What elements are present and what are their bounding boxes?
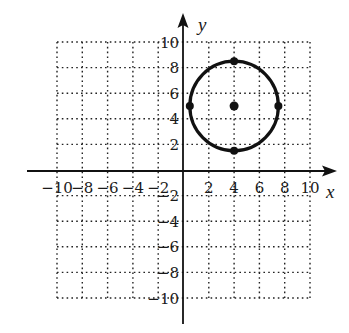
x-tick-label: −6 <box>97 179 119 197</box>
x-tick-label: 10 <box>300 179 319 197</box>
center-point <box>230 102 239 111</box>
y-tick-label: 10 <box>160 34 179 52</box>
y-tick-label: −2 <box>157 187 179 205</box>
x-tick-label: 8 <box>280 179 290 197</box>
y-tick-label: −6 <box>157 238 179 256</box>
y-tick-label: −10 <box>147 290 179 308</box>
y-axis-label: y <box>196 14 207 35</box>
x-tick-label: −8 <box>71 179 93 197</box>
y-tick-label: 4 <box>169 110 179 128</box>
x-tick-label: 2 <box>204 179 214 197</box>
circle-point <box>230 57 238 65</box>
x-tick-label: 4 <box>229 179 239 197</box>
x-tick-label: −10 <box>41 179 73 197</box>
x-tick-label: 6 <box>255 179 265 197</box>
coordinate-plane: x y −10−8−6−4−2246810108642−2−4−6−8−10 <box>0 0 349 333</box>
y-tick-label: 2 <box>169 136 179 154</box>
graph-figure: x y −10−8−6−4−2246810108642−2−4−6−8−10 <box>0 0 349 333</box>
circle-point <box>230 147 238 155</box>
y-tick-label: 8 <box>169 59 179 77</box>
circle-point <box>274 102 282 110</box>
y-tick-label: 6 <box>169 85 179 103</box>
x-tick-label: −4 <box>122 179 144 197</box>
y-tick-label: −8 <box>157 264 179 282</box>
x-axis-label: x <box>325 181 335 202</box>
circle-point <box>186 102 194 110</box>
axes: x y <box>27 13 337 324</box>
y-tick-label: −4 <box>157 213 179 231</box>
